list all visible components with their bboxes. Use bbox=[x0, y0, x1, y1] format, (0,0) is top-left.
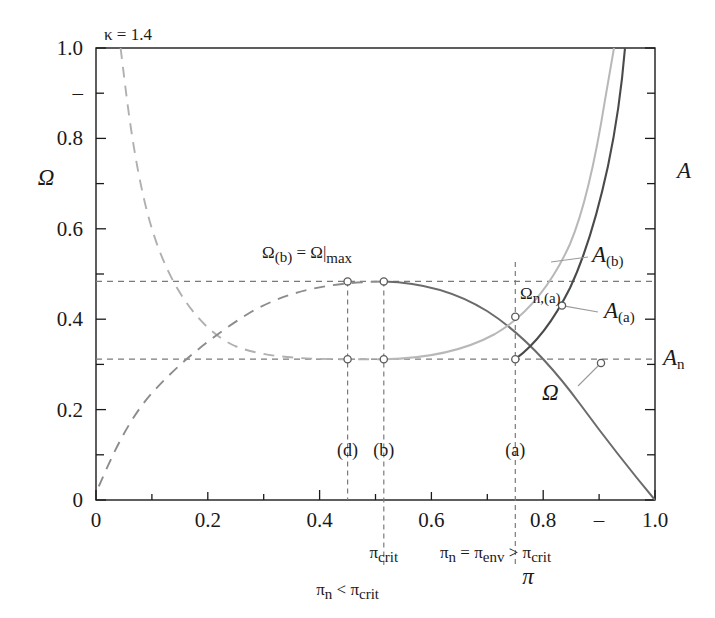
omega-b-max-omega: Ω bbox=[262, 243, 275, 262]
marker-an-a bbox=[512, 356, 519, 363]
y-axis-title: Ω bbox=[38, 165, 55, 190]
kappa-annotation: κ = 1.4 bbox=[104, 25, 152, 44]
x-tick-08: 0.8 bbox=[530, 508, 556, 532]
marker-omega-n-a bbox=[512, 313, 519, 320]
y-tick-0: 0 bbox=[73, 488, 84, 512]
omega-b-max-max: max bbox=[326, 250, 352, 266]
marker-an-d bbox=[344, 356, 351, 363]
a-a-sub: (a) bbox=[618, 309, 635, 326]
pi-crit-sub: crit bbox=[378, 549, 399, 565]
a-n-a: A bbox=[661, 345, 678, 370]
marker-omega-d bbox=[344, 278, 351, 285]
y-tick-dash: – bbox=[72, 81, 84, 105]
x-tick-10: 1.0 bbox=[642, 508, 668, 532]
y-tick-06: 0.6 bbox=[57, 217, 83, 241]
pi-lt-sub2: crit bbox=[359, 586, 380, 602]
omega-n-a-omega: Ω bbox=[520, 284, 533, 303]
pi-env-gt: > bbox=[504, 543, 522, 562]
omega-n-a-sub: n,(a) bbox=[533, 290, 561, 307]
x-tick-dash: – bbox=[593, 508, 605, 532]
pi-lt-op: < bbox=[332, 580, 350, 599]
a-a-a: A bbox=[602, 298, 619, 323]
case-label-d: (d) bbox=[337, 440, 358, 461]
a-n-sub: n bbox=[677, 356, 685, 372]
marker-omega-right bbox=[597, 359, 604, 366]
omega-b-max-sub: (b) bbox=[275, 249, 293, 266]
y-axis-title-right: A bbox=[675, 158, 692, 183]
marker-an-b bbox=[380, 356, 387, 363]
a-b-a: A bbox=[590, 242, 607, 267]
marker-omega-b bbox=[380, 278, 387, 285]
y-tick-08: 0.8 bbox=[57, 126, 83, 150]
case-label-a: (a) bbox=[505, 440, 525, 461]
case-label-b: (b) bbox=[373, 440, 394, 461]
pi-env-sub3: crit bbox=[531, 549, 552, 565]
annotation-omega-right: Ω bbox=[542, 380, 559, 405]
chart-figure: 0 0.2 0.4 0.6 0.8 – 1.0 0 0.2 0.4 0.6 0.… bbox=[0, 0, 715, 618]
a-b-sub: (b) bbox=[606, 253, 624, 270]
y-tick-10: 1.0 bbox=[57, 36, 83, 60]
y-tick-04: 0.4 bbox=[57, 307, 84, 331]
y-tick-02: 0.2 bbox=[57, 398, 83, 422]
x-tick-06: 0.6 bbox=[418, 508, 444, 532]
x-tick-0: 0 bbox=[91, 508, 102, 532]
chart-svg: 0 0.2 0.4 0.6 0.8 – 1.0 0 0.2 0.4 0.6 0.… bbox=[0, 0, 715, 618]
pi-env-sub2: env bbox=[483, 549, 505, 565]
x-tick-02: 0.2 bbox=[195, 508, 221, 532]
pi-env-eq: = bbox=[456, 543, 474, 562]
x-tick-04: 0.4 bbox=[306, 508, 333, 532]
omega-b-max-eq: = Ω bbox=[292, 243, 323, 262]
x-axis-title: π bbox=[522, 564, 535, 589]
